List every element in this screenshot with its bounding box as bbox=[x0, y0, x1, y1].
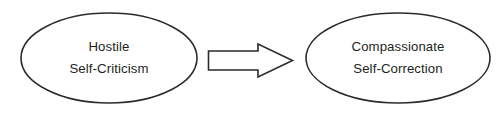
diagram-svg: Hostile Self-Criticism Compassionate Sel… bbox=[0, 0, 501, 118]
node-label-hostile-line1: Hostile bbox=[88, 39, 129, 54]
node-compassionate-self-correction[interactable]: Compassionate Self-Correction bbox=[306, 13, 490, 103]
node-label-compassionate-line1: Compassionate bbox=[352, 39, 445, 54]
ellipse-hostile-self-criticism bbox=[21, 13, 197, 103]
node-label-hostile-line2: Self-Criticism bbox=[69, 61, 148, 76]
node-hostile-self-criticism[interactable]: Hostile Self-Criticism bbox=[21, 13, 197, 103]
right-arrow-icon bbox=[209, 44, 293, 77]
transition-arrow[interactable] bbox=[209, 44, 293, 77]
node-label-compassionate-line2: Self-Correction bbox=[353, 61, 442, 76]
diagram-canvas: Hostile Self-Criticism Compassionate Sel… bbox=[0, 0, 501, 118]
ellipse-compassionate-self-correction bbox=[306, 13, 490, 103]
